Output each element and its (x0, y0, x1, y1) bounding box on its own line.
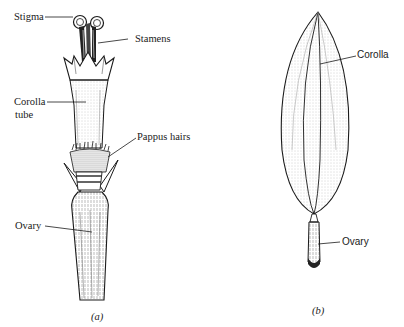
caption-b: (b) (312, 305, 324, 316)
ray-floret-drawing (281, 12, 349, 268)
ray-ovary-drawing (308, 214, 320, 268)
label-stamens: Stamens (135, 33, 171, 45)
flower-illustrations (0, 0, 404, 327)
label-pappus-hairs: Pappus hairs (137, 131, 190, 143)
label-corolla-tube-line1: Corolla (14, 96, 46, 108)
corolla-lobes-drawing (64, 52, 114, 80)
caption-a: (a) (91, 311, 103, 322)
ovary-drawing (72, 192, 109, 300)
diagram-canvas: Stigma Stamens Corolla tube Pappus hairs… (0, 0, 404, 327)
label-ovary-b: Ovary (342, 236, 369, 248)
disc-floret-drawing (64, 16, 118, 301)
corolla-tube-drawing (70, 80, 108, 148)
label-corolla-b: Corolla (357, 49, 389, 61)
label-corolla-tube-line2: tube (15, 109, 33, 121)
label-ovary-a: Ovary (15, 220, 41, 232)
label-stigma: Stigma (14, 11, 44, 23)
ligule-drawing (281, 12, 349, 214)
